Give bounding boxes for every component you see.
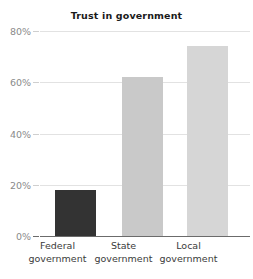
plot-area: 80% 60% 40% 20% 0% (40, 31, 250, 236)
tick-stub-20 (33, 185, 39, 186)
chart-title: Trust in government (0, 10, 253, 21)
xtick-label-local-government: Local government (151, 240, 226, 265)
xtick-label-federal-line2: government (20, 253, 95, 266)
tick-stub-80 (33, 31, 39, 32)
xtick-label-state-line1: State (86, 240, 161, 253)
ytick-label-20: 20% (10, 179, 31, 190)
ytick-label-60: 60% (10, 77, 31, 88)
bar-state-government (122, 77, 163, 236)
bar-chart: Trust in government 80% 60% 40% 20% 0% (0, 0, 253, 279)
gridline-80: 80% (40, 31, 250, 32)
xtick-label-local-line1: Local (151, 240, 226, 253)
xtick-label-local-line2: government (151, 253, 226, 266)
xtick-label-federal-government: Federal government (20, 240, 95, 265)
axis-baseline: 0% (40, 236, 250, 237)
tick-stub-0 (33, 236, 39, 237)
ytick-label-40: 40% (10, 128, 31, 139)
tick-stub-40 (33, 134, 39, 135)
ytick-label-80: 80% (10, 26, 31, 37)
xtick-label-state-line2: government (86, 253, 161, 266)
xtick-label-federal-line1: Federal (20, 240, 95, 253)
tick-stub-60 (33, 82, 39, 83)
bar-local-government (187, 46, 228, 236)
bar-federal-government (55, 190, 96, 236)
xtick-label-state-government: State government (86, 240, 161, 265)
